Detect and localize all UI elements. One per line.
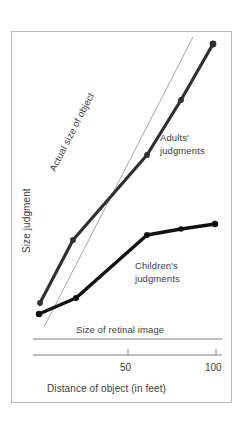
children-judgments-label-line2: judgments — [135, 272, 180, 285]
x-axis-label: Distance of object (in feet) — [47, 383, 166, 394]
y-axis-label: Size judgment — [21, 188, 32, 253]
adults-judgments-line — [40, 44, 213, 303]
children-judgments-line — [39, 224, 215, 314]
figure-container: Actual size of object Adults' judgments … — [0, 0, 250, 422]
adults-judgments-label-line2: judgments — [160, 144, 205, 157]
x-axis-tick-label-50: 50 — [120, 362, 131, 373]
retinal-image-label: Size of retinal image — [76, 324, 164, 335]
chart-plot — [0, 0, 250, 422]
children-judgments-label-line1: Children's — [135, 259, 180, 272]
adults-judgments-label-line1: Adults' — [160, 131, 205, 144]
adults-judgments-label: Adults' judgments — [160, 131, 205, 157]
children-judgments-label: Children's judgments — [135, 259, 180, 285]
adults-judgments-markers — [37, 41, 216, 306]
x-axis-tick-label-100: 100 — [205, 362, 222, 373]
